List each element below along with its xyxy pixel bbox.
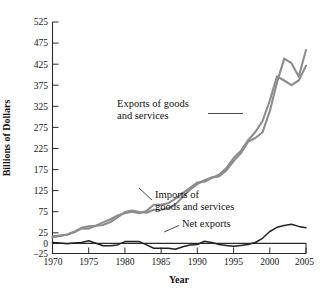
- y-tick-label: 325: [34, 102, 49, 112]
- annotation-net-exports-leader-line: [164, 226, 179, 233]
- x-axis-title: Year: [169, 274, 190, 285]
- chart-container: 525 475 425 375 325 275 225 175 125 75 2…: [0, 0, 321, 290]
- y-tick-label: 525: [34, 17, 49, 27]
- x-tick-label: 1970: [44, 257, 63, 267]
- x-tick-label: 2005: [295, 257, 314, 267]
- x-tick-label: 1975: [79, 257, 98, 267]
- axis-frame: [53, 22, 307, 254]
- y-axis-title: Billions of Dollars: [1, 100, 12, 177]
- y-tick-label: 375: [34, 81, 49, 91]
- annotation-imports-line1: Imports of: [155, 189, 200, 200]
- y-tick-labels: 525 475 425 375 325 275 225 175 125 75 2…: [33, 17, 49, 258]
- x-tick-label: 2000: [260, 257, 279, 267]
- annotation-exports-line1: Exports of goods: [117, 98, 189, 109]
- x-tick-label: 1990: [188, 257, 207, 267]
- annotation-exports-line2: and services: [117, 110, 169, 121]
- y-tick-label: 275: [34, 123, 49, 133]
- y-tick-label: 425: [34, 60, 49, 70]
- x-tick-labels: 1970 1975 1980 1985 1990 1995 2000 2005: [44, 257, 315, 267]
- annotation-exports: Exports of goods and services: [117, 98, 243, 121]
- y-tick-label: 25: [39, 228, 49, 238]
- y-tick-label: 475: [34, 38, 49, 48]
- y-tick-label: 0: [43, 239, 48, 249]
- annotation-net-exports-label: Net exports: [182, 218, 231, 229]
- axis-spines: [53, 22, 307, 254]
- annotation-imports: Imports of goods and services: [139, 188, 234, 212]
- y-tick-label: 225: [34, 144, 49, 154]
- y-tick-marks: [53, 22, 59, 254]
- y-tick-label: 75: [39, 207, 49, 217]
- x-tick-label: 1980: [115, 257, 134, 267]
- x-tick-label: 1985: [152, 257, 171, 267]
- x-tick-label: 1995: [224, 257, 243, 267]
- line-chart-figure: 525 475 425 375 325 275 225 175 125 75 2…: [0, 0, 321, 290]
- annotation-imports-leader-line: [139, 188, 152, 200]
- y-tick-label: 175: [34, 165, 49, 175]
- y-tick-label: 125: [34, 186, 49, 196]
- annotation-imports-line2: goods and services: [155, 201, 234, 212]
- annotation-net-exports: Net exports: [164, 218, 231, 232]
